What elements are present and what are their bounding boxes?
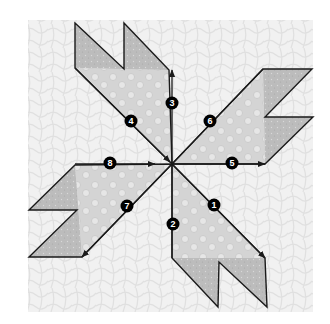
step-badge-8: 8 <box>104 157 117 170</box>
step-label-4: 4 <box>128 116 133 126</box>
step-label-7: 7 <box>124 201 129 211</box>
quilt-diagram: 1 2 3 4 5 6 7 8 <box>0 0 330 324</box>
step-badge-7: 7 <box>121 200 134 213</box>
step-label-2: 2 <box>170 219 175 229</box>
step-badge-5: 5 <box>226 157 239 170</box>
step-label-8: 8 <box>107 158 112 168</box>
step-badge-6: 6 <box>204 115 217 128</box>
step-badge-2: 2 <box>167 218 180 231</box>
step-label-5: 5 <box>229 158 234 168</box>
step-badge-1: 1 <box>208 199 221 212</box>
step-badge-3: 3 <box>166 97 179 110</box>
step-label-1: 1 <box>211 200 216 210</box>
step-badge-4: 4 <box>125 115 138 128</box>
step-label-3: 3 <box>169 98 174 108</box>
step-label-6: 6 <box>207 116 212 126</box>
